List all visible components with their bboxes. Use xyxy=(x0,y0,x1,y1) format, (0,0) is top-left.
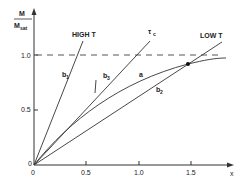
intersection-point xyxy=(186,62,190,66)
magnetization-chart: 0 0.5 1.0 1.5 0 0.5 1.0 x M M sat HIGH T… xyxy=(0,0,236,189)
arrow-b3-pointer xyxy=(95,80,96,93)
ticks xyxy=(34,55,191,165)
label-b3: b 3 xyxy=(103,72,110,81)
line-b2-low-t xyxy=(34,42,222,165)
label-high-t: HIGH T xyxy=(72,31,96,38)
x-tick-0: 0 xyxy=(31,169,35,176)
svg-text:sat: sat xyxy=(20,25,28,31)
x-tick-1.5: 1.5 xyxy=(186,169,196,176)
x-tick-0.5: 0.5 xyxy=(81,169,91,176)
x-axis-label: x xyxy=(230,170,234,177)
y-tick-1.0: 1.0 xyxy=(21,52,31,59)
line-b3-tau-c xyxy=(34,41,150,165)
svg-text:3: 3 xyxy=(107,75,110,81)
y-axis-label: M M sat xyxy=(14,10,32,31)
x-axis-arrow-icon xyxy=(227,163,234,168)
svg-text:1: 1 xyxy=(66,74,69,80)
y-tick-0.5: 0.5 xyxy=(21,106,31,113)
line-b1-high-t xyxy=(34,41,83,165)
label-low-t: LOW T xyxy=(200,32,223,39)
svg-text:c: c xyxy=(153,31,156,37)
label-b2: b 2 xyxy=(156,86,163,95)
label-a: a xyxy=(139,71,143,78)
svg-text:τ: τ xyxy=(148,28,152,35)
svg-text:M: M xyxy=(19,10,25,17)
svg-text:2: 2 xyxy=(160,89,163,95)
label-tau-c: τ c xyxy=(148,28,156,37)
label-b1: b 1 xyxy=(62,71,69,80)
y-axis-arrow-icon xyxy=(32,8,37,15)
y-tick-0: 0 xyxy=(28,160,32,167)
x-tick-1.0: 1.0 xyxy=(134,169,144,176)
